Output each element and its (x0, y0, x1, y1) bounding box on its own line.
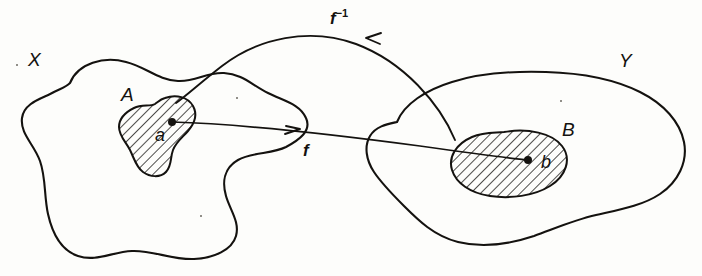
set-mapping-diagram: X Y A B a b f f−1 (0, 0, 702, 276)
point-label-b: b (541, 153, 551, 171)
function-label-f: f (303, 142, 309, 159)
set-label-B: B (562, 120, 575, 139)
function-label-f-inverse: f−1 (330, 8, 348, 27)
point-a-marker (168, 118, 176, 126)
function-label-f-inverse-exponent: −1 (336, 7, 348, 19)
set-label-X: X (28, 50, 41, 69)
set-label-Y: Y (619, 51, 632, 70)
paper-speck (16, 64, 18, 66)
diagram-canvas (0, 0, 702, 276)
point-label-a: a (155, 126, 165, 144)
paper-speck (200, 215, 202, 217)
paper-speck (236, 97, 238, 99)
point-b-marker (524, 156, 532, 164)
paper-speck (560, 100, 562, 102)
set-label-A: A (121, 85, 134, 104)
